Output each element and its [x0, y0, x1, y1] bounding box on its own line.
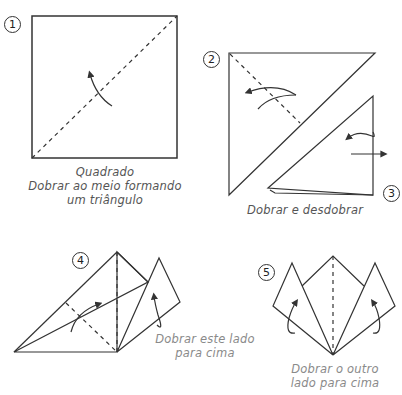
step-2-triangle	[229, 53, 375, 195]
fold-arrow-icon	[248, 88, 296, 95]
step-2-number: 2	[203, 51, 220, 68]
step-3-caption: Dobrar e desdobrar	[230, 203, 380, 217]
caption-line: Dobrar ao meio formando	[20, 179, 190, 193]
caption-line: para cima	[150, 346, 260, 360]
step-5-shape	[273, 256, 395, 355]
fold-arrow-icon	[373, 302, 380, 333]
step-5-caption: Dobrar o outro lado para cima	[280, 362, 390, 390]
step-3-number: 3	[383, 185, 400, 202]
step-1-caption: Quadrado Dobrar ao meio formando um triâ…	[20, 165, 190, 207]
step-4-number: 4	[72, 252, 89, 269]
caption-line: um triângulo	[20, 193, 190, 207]
step-3-triangle	[268, 96, 384, 195]
caption-line: lado para cima	[280, 376, 390, 390]
step-1-number: 1	[4, 16, 21, 33]
caption-line: Quadrado	[20, 165, 190, 179]
caption-line: Dobrar e desdobrar	[230, 203, 380, 217]
fold-arrow-icon	[288, 302, 296, 333]
step-5-number: 5	[258, 264, 275, 281]
fold-arrow-icon	[348, 132, 374, 138]
step-4-caption: Dobrar este lado para cima	[150, 332, 260, 360]
caption-line: Dobrar o outro	[280, 362, 390, 376]
caption-line: Dobrar este lado	[150, 332, 260, 346]
fold-arrow-icon	[71, 304, 99, 332]
step-1-square	[32, 16, 177, 158]
